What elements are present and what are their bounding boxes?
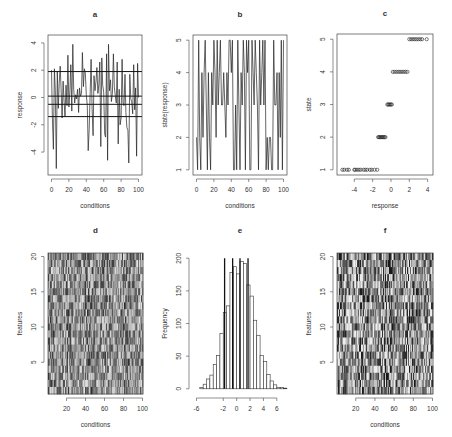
histogram-bar: [270, 381, 273, 389]
y-axis: 050100150200: [175, 252, 189, 390]
y-tick-label: 2: [175, 135, 182, 139]
x-axis: -6-20246: [194, 398, 279, 412]
x-tick-label: 4: [262, 405, 266, 412]
x-tick-label: 20: [63, 405, 71, 412]
histogram-bar: [280, 387, 283, 388]
y-tick-label: 1: [319, 168, 326, 172]
histogram-bar: [260, 355, 263, 388]
y-tick-label: 2: [319, 135, 326, 139]
y-axis: 12345: [175, 38, 189, 172]
x-tick-label: 20: [210, 186, 218, 193]
x-tick-label: -4: [351, 186, 357, 193]
y-axis-label: features: [305, 311, 312, 335]
panel-e: e-6-20246050100150200Frequency: [161, 226, 287, 412]
y-tick-label: -4: [30, 149, 37, 155]
x-tick-label: 40: [371, 405, 379, 412]
panel-d: d20406080100conditions5101520features: [16, 226, 148, 428]
histogram-bar: [210, 375, 213, 389]
x-tick-label: 60: [101, 405, 109, 412]
histogram-bar: [263, 361, 266, 388]
histogram-bar: [207, 379, 210, 389]
panel-c: c-4-2024response12345state: [305, 9, 433, 210]
y-tick-label: 100: [175, 318, 182, 329]
y-axis-label: features: [16, 311, 23, 335]
histogram-bar: [253, 320, 256, 389]
y-tick-label: 10: [319, 323, 326, 331]
histogram-bar: [277, 387, 280, 388]
chart-title: b: [238, 10, 243, 19]
plot-frame: [337, 34, 433, 175]
chart-title: d: [93, 226, 98, 235]
y-tick-label: 3: [175, 103, 182, 107]
y-tick-label: -2: [30, 122, 37, 128]
series-line: [197, 40, 284, 170]
y-tick-label: 15: [319, 288, 326, 296]
y-tick-label: 200: [175, 252, 182, 263]
y-axis: 5101520: [30, 253, 44, 365]
y-axis: 12345: [319, 37, 333, 172]
x-tick-label: 2: [248, 405, 252, 412]
y-tick-label: 4: [30, 41, 37, 45]
x-tick-label: 0: [389, 186, 393, 193]
histogram-bar: [200, 387, 203, 388]
histogram-bar: [227, 306, 230, 389]
figure: a020406080100conditions-4-2024responseb0…: [0, 0, 452, 437]
y-tick-label: 5: [319, 360, 326, 364]
panel-f: f20406080100conditions5101520features: [305, 226, 438, 428]
x-tick-label: 40: [228, 186, 236, 193]
x-tick-label: 40: [83, 186, 91, 193]
x-tick-label: 20: [65, 186, 73, 193]
histogram-bar: [284, 388, 287, 389]
chart-title: f: [384, 226, 387, 235]
x-tick-label: 100: [133, 186, 144, 193]
x-tick-label: 100: [137, 405, 148, 412]
y-tick-label: 5: [175, 38, 182, 42]
x-axis: -4-2024: [351, 179, 429, 193]
x-tick-label: -2: [370, 186, 376, 193]
x-axis-label: conditions: [80, 202, 110, 209]
x-axis: 20406080100: [352, 398, 438, 412]
y-tick-label: 20: [30, 253, 37, 261]
x-tick-label: 0: [235, 405, 239, 412]
y-tick-label: 150: [175, 285, 182, 296]
y-axis-label: state: [305, 97, 312, 111]
plot-area: [200, 258, 287, 389]
y-axis-label: state(response): [161, 82, 169, 127]
x-tick-label: 40: [82, 405, 90, 412]
x-tick-label: 80: [120, 405, 128, 412]
y-tick-label: 3: [319, 102, 326, 106]
histogram-bar: [217, 355, 220, 388]
y-axis: 5101520: [319, 253, 333, 365]
y-tick-label: 4: [175, 70, 182, 74]
x-tick-label: 100: [427, 405, 438, 412]
y-tick-label: 2: [30, 68, 37, 72]
plot-area: [337, 253, 433, 394]
chart-title: c: [383, 9, 388, 18]
x-tick-label: 0: [50, 186, 54, 193]
data-point: [425, 38, 428, 41]
x-tick-label: 4: [426, 186, 430, 193]
x-axis: 020406080100: [50, 179, 145, 193]
x-axis-label: conditions: [225, 202, 255, 209]
x-axis-label: conditions: [370, 421, 400, 428]
y-axis: -4-2024: [30, 41, 44, 155]
histogram-bar: [273, 385, 276, 389]
plot-area: [341, 38, 429, 172]
panel-a: a020406080100conditions-4-2024response: [16, 10, 144, 209]
x-tick-label: 60: [100, 186, 108, 193]
histogram-bar: [203, 384, 206, 389]
y-tick-label: 20: [319, 253, 326, 261]
chart-title: a: [93, 10, 98, 19]
plot-area: [197, 40, 284, 170]
histogram-bar: [220, 333, 223, 388]
histogram-bar: [267, 374, 270, 388]
x-axis-label: response: [372, 202, 399, 210]
y-axis-label: Frequency: [161, 307, 169, 338]
panel-b: b020406080100conditions12345state(respon…: [161, 10, 289, 209]
y-tick-label: 1: [175, 168, 182, 172]
y-tick-label: 10: [30, 323, 37, 331]
y-tick-label: 0: [175, 387, 182, 391]
histogram-bar: [243, 263, 246, 388]
histogram-bar: [250, 296, 253, 389]
y-tick-label: 5: [30, 360, 37, 364]
